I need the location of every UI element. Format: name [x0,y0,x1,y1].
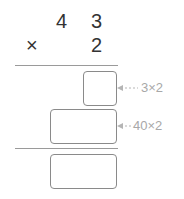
tens-partial-hint: 40×2 [133,119,162,133]
ones-partial-answer-box[interactable] [83,71,117,106]
final-answer-box[interactable] [50,154,117,189]
ones-partial-hint: 3×2 [141,81,163,95]
multiplier-digit: 2 [91,35,102,55]
multiply-operator: × [26,35,38,55]
multiplicand-ones-digit: 3 [91,11,102,31]
bottom-divider-line [15,148,118,149]
tens-partial-answer-box[interactable] [50,109,117,144]
top-divider-line [15,65,118,66]
arrow-left-icon [117,84,139,92]
multiplicand-tens-digit: 4 [56,11,67,31]
arrow-left-icon [117,122,133,130]
